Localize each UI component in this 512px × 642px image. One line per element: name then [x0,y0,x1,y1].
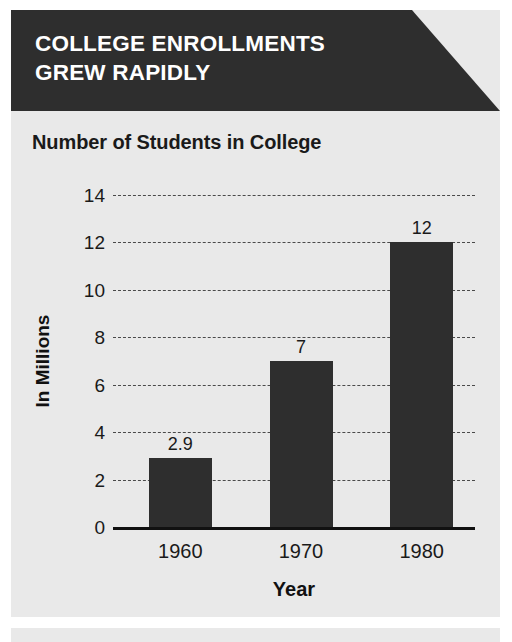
x-axis-line [113,527,475,530]
x-axis-tick-label: 1970 [251,540,351,563]
y-axis-tick-label: 8 [65,328,105,347]
bar [390,242,453,527]
y-axis-tick-label: 2 [65,471,105,490]
x-axis-title: Year [113,578,475,601]
bar-value-label: 7 [261,338,341,356]
bar-value-label: 12 [382,219,462,237]
bar-chart: In Millions 02468101214 2.9712 196019701… [0,0,512,642]
y-axis-tick-label: 4 [65,423,105,442]
y-axis-tick-label: 10 [65,281,105,300]
x-axis-tick-label: 1980 [372,540,472,563]
y-axis-tick-label: 12 [65,233,105,252]
bar [149,458,212,527]
y-axis-title: In Millions [32,281,54,441]
bar [270,361,333,527]
y-axis-tick-label: 0 [65,518,105,537]
infographic-root: COLLEGE ENROLLMENTS GREW RAPIDLY Number … [0,0,512,642]
bar-value-label: 2.9 [140,435,220,453]
y-axis-tick-label: 6 [65,376,105,395]
gridline [113,195,475,196]
x-axis-tick-label: 1960 [130,540,230,563]
y-axis-tick-label: 14 [65,186,105,205]
